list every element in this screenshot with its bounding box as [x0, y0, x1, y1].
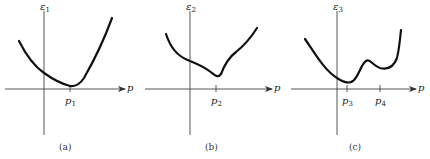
panel-b-tick-label-p2: p2	[211, 96, 222, 108]
panel-c-x-axis-label: p	[418, 83, 424, 93]
panel-a	[5, 11, 125, 135]
panel-b-caption: (b)	[205, 143, 218, 152]
panel-a-x-axis-label: p	[127, 83, 133, 93]
panel-b-x-axis-label: p	[274, 83, 280, 93]
panel-c-tick-label-p4: p4	[375, 96, 386, 108]
panel-c	[291, 11, 416, 135]
panel-c-curve	[305, 30, 401, 82]
panel-b	[145, 11, 272, 135]
panel-c-y-axis-label: ε3	[333, 2, 343, 14]
figure-canvas	[0, 0, 430, 159]
panel-a-tick-label-p1: p1	[65, 96, 76, 108]
panel-a-caption: (a)	[59, 143, 71, 152]
panel-b-y-axis-label: ε2	[186, 2, 196, 14]
panel-a-curve	[19, 18, 112, 86]
panel-b-curve	[166, 28, 257, 76]
panel-c-tick-label-p3: p3	[342, 96, 353, 108]
panel-a-y-axis-label: ε1	[40, 2, 50, 14]
panel-c-caption: (c)	[349, 143, 361, 152]
